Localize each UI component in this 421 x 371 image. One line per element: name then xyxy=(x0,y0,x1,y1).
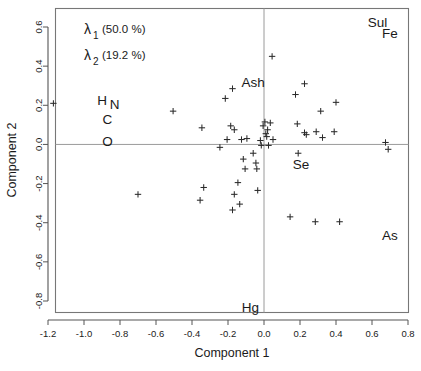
data-point xyxy=(385,146,391,152)
variable-label-h: H xyxy=(97,93,107,108)
eigenvalue-legend: λ1(50.0 %)λ2(19.2 %) xyxy=(84,21,146,67)
data-point xyxy=(269,53,275,59)
eigenvalue-symbol: λ xyxy=(84,21,91,37)
data-point xyxy=(235,179,241,185)
data-point xyxy=(231,191,237,197)
data-point xyxy=(240,156,246,162)
data-point xyxy=(135,191,141,197)
data-point xyxy=(231,127,237,133)
data-point xyxy=(257,137,263,143)
x-tick-label: 0.8 xyxy=(401,328,414,339)
data-point xyxy=(287,214,293,220)
variable-label-c: C xyxy=(103,112,113,127)
data-point xyxy=(265,142,271,148)
data-point xyxy=(319,134,325,140)
y-axis-title: Component 2 xyxy=(5,122,19,197)
data-point xyxy=(270,136,276,142)
data-point xyxy=(255,187,261,193)
eigenvalue-percent: (19.2 %) xyxy=(102,49,146,61)
data-point xyxy=(333,99,339,105)
x-tick-label: -0.8 xyxy=(112,328,128,339)
data-point xyxy=(292,91,298,97)
x-tick-label: 0.6 xyxy=(365,328,378,339)
y-tick-label: 0.2 xyxy=(33,99,44,112)
data-point xyxy=(294,121,300,127)
data-point xyxy=(267,120,273,126)
x-axis-title: Component 1 xyxy=(194,346,269,360)
eigenvalue-subscript: 1 xyxy=(93,30,99,41)
data-point xyxy=(242,166,248,172)
data-point xyxy=(313,129,319,135)
data-point xyxy=(331,129,337,135)
x-tick-label: -1.0 xyxy=(76,328,92,339)
y-axis-tick-labels: 0.60.40.20.0-0.2-0.4-0.6-0.8 xyxy=(33,20,44,309)
data-point xyxy=(201,184,207,190)
data-point xyxy=(318,108,324,114)
data-point xyxy=(312,219,318,225)
x-tick-label: 0.2 xyxy=(293,328,306,339)
data-point xyxy=(253,160,259,166)
variable-label-se: Se xyxy=(293,157,310,172)
data-point xyxy=(217,144,223,150)
variable-label-hg: Hg xyxy=(242,300,259,315)
data-point xyxy=(336,219,342,225)
x-axis-ticks xyxy=(48,320,408,325)
data-point xyxy=(224,136,230,142)
data-point xyxy=(254,166,260,172)
x-tick-label: -0.6 xyxy=(148,328,164,339)
y-tick-label: -0.4 xyxy=(33,215,44,231)
x-axis-tick-labels: -1.2-1.0-0.8-0.6-0.4-0.20.00.20.40.60.8 xyxy=(40,328,415,339)
x-tick-label: -1.2 xyxy=(40,328,56,339)
x-tick-label: -0.4 xyxy=(184,328,200,339)
y-tick-label: 0.6 xyxy=(33,20,44,33)
data-point xyxy=(295,150,301,156)
x-tick-label: 0.4 xyxy=(329,328,342,339)
scatter-plot-figure: -1.2-1.0-0.8-0.6-0.4-0.20.00.20.40.60.8 … xyxy=(0,0,421,371)
data-point xyxy=(238,136,244,142)
eigenvalue-percent: (50.0 %) xyxy=(102,23,146,35)
pca-scatter-svg: -1.2-1.0-0.8-0.6-0.4-0.20.00.20.40.60.8 … xyxy=(0,0,421,371)
eigenvalue-symbol: λ xyxy=(84,47,91,63)
variable-label-fe: Fe xyxy=(382,26,398,41)
data-point xyxy=(229,207,235,213)
data-point xyxy=(244,135,250,141)
variable-label-o: O xyxy=(102,134,113,149)
y-tick-label: 0.0 xyxy=(33,138,44,151)
data-point xyxy=(197,197,203,203)
variable-label-ash: Ash xyxy=(242,75,265,90)
data-point xyxy=(250,150,256,156)
data-point xyxy=(228,123,234,129)
eigenvalue-subscript: 2 xyxy=(93,56,99,67)
data-point xyxy=(301,81,307,87)
x-tick-label: -0.2 xyxy=(220,328,236,339)
y-tick-label: -0.2 xyxy=(33,175,44,191)
data-point xyxy=(170,108,176,114)
y-tick-label: 0.4 xyxy=(33,60,44,73)
variable-label-as: As xyxy=(382,228,398,243)
x-tick-label: 0.0 xyxy=(257,328,270,339)
data-point xyxy=(222,95,228,101)
data-point xyxy=(229,85,235,91)
data-point xyxy=(199,125,205,131)
data-point xyxy=(237,201,243,207)
y-tick-label: -0.6 xyxy=(33,254,44,270)
variable-label-n: N xyxy=(110,97,120,112)
y-tick-label: -0.8 xyxy=(33,293,44,309)
